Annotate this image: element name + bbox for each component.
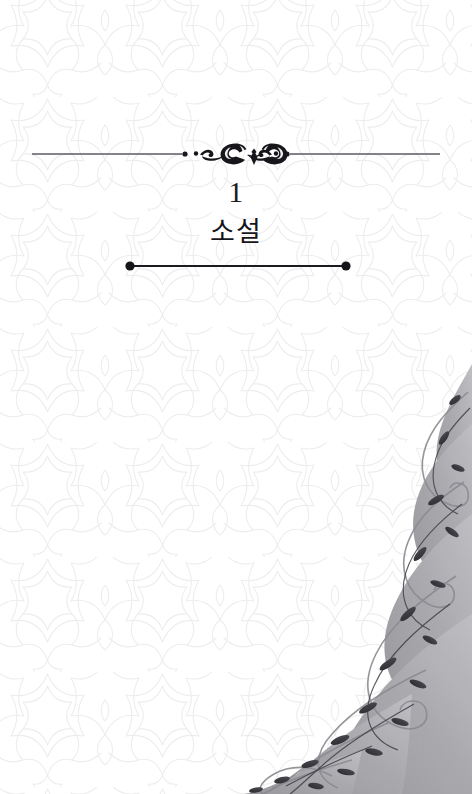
floral-vine-corner-ornament <box>212 364 472 794</box>
chapter-number: 1 <box>0 176 472 208</box>
background-star-lattice-pattern <box>0 0 472 794</box>
chapter-title: 소설 <box>0 216 472 248</box>
dotted-end-rule <box>0 256 472 276</box>
flourish-divider-ornament <box>0 134 472 174</box>
book-page: 1 소설 <box>0 0 472 794</box>
